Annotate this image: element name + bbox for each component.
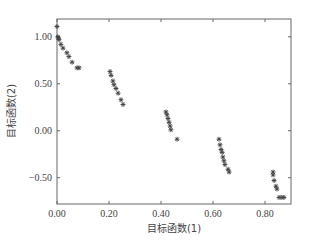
data-point-marker [222, 158, 227, 163]
data-point-marker [167, 120, 172, 125]
x-axis-ticks: 0.000.200.400.600.80 [48, 19, 274, 219]
data-point-marker [168, 127, 173, 132]
data-point-marker [70, 60, 75, 65]
data-point-marker [119, 97, 124, 102]
x-tick-label: 0.00 [48, 208, 66, 219]
data-point-marker [227, 170, 232, 175]
data-point-marker [218, 142, 223, 147]
data-point-marker [116, 91, 121, 96]
x-tick-label: 0.60 [204, 208, 222, 219]
y-axis-label: 目标函数(2) [5, 84, 17, 138]
y-tick-label: 0.50 [35, 78, 53, 89]
plot-frame [57, 19, 291, 204]
data-point-marker [67, 54, 72, 59]
data-point-marker [111, 79, 116, 84]
data-point-marker [282, 195, 287, 200]
data-point-marker [77, 65, 82, 70]
data-point-marker [275, 187, 280, 192]
y-tick-label: −0.50 [29, 172, 52, 183]
x-axis-label: 目标函数(1) [147, 222, 201, 234]
data-point-marker [217, 137, 222, 142]
data-point-marker [272, 178, 277, 183]
data-points [55, 24, 287, 200]
data-point-marker [271, 172, 276, 177]
data-point-marker [109, 73, 114, 78]
x-tick-label: 0.20 [100, 208, 118, 219]
data-point-marker [165, 112, 170, 117]
data-point-marker [108, 69, 113, 74]
data-point-marker [121, 102, 126, 107]
y-tick-label: 1.00 [35, 31, 53, 42]
y-tick-label: 0.00 [35, 125, 53, 136]
data-point-marker [114, 86, 119, 91]
x-tick-label: 0.40 [152, 208, 170, 219]
data-point-marker [220, 150, 225, 155]
data-point-marker [57, 37, 62, 42]
data-point-marker [175, 137, 180, 142]
x-tick-label: 0.80 [256, 208, 274, 219]
data-point-marker [223, 162, 228, 167]
data-point-marker [55, 24, 60, 29]
data-point-marker [61, 46, 66, 51]
data-point-marker [220, 155, 225, 160]
scatter-chart: 0.000.200.400.600.80 1.000.500.00−0.50 目… [0, 0, 310, 244]
data-point-marker [166, 116, 171, 121]
data-point-marker [168, 124, 173, 129]
